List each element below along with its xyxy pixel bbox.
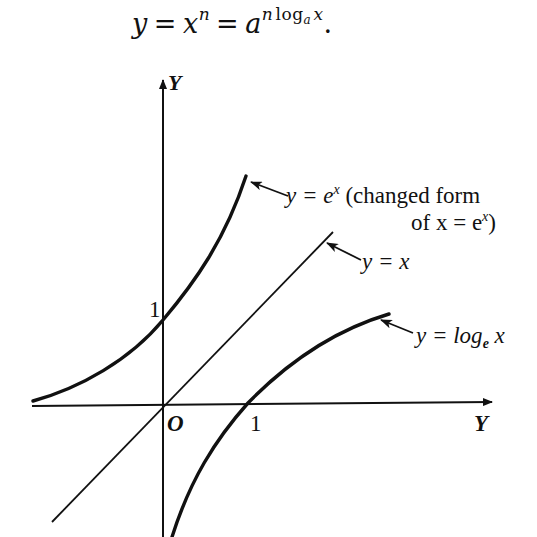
exp-label-note-2-sup: x [482,209,488,224]
x-axis-label: Y [474,412,488,435]
exp-label-sup: x [333,182,339,197]
exp-label-note-2-suffix: ) [488,210,496,235]
log-label-main: y = log [416,323,483,348]
y-tick-label-1: 1 [149,298,161,321]
log-curve-label: y = loge x [416,324,505,347]
exp-curve [33,176,246,401]
exp-label-pointer [251,182,288,196]
log-label-suffix: x [489,323,505,348]
origin-label: O [167,412,184,435]
exp-curve-label-line2: of x = ex) [411,211,496,234]
log-label-pointer [381,320,413,333]
identity-label-pointer [327,243,361,260]
exp-curve-label: y = ex (changed form [286,184,480,207]
exp-label-note-1: (changed form [340,183,481,208]
exp-label-note-2: of x = e [411,210,482,235]
x-tick-label-1: 1 [250,412,262,435]
exp-label-main: y = e [286,183,333,208]
graph-canvas [0,0,537,537]
log-label-sub: e [483,336,489,351]
y-axis-label: Y [168,72,181,94]
log-curve [172,314,389,537]
x-axis [32,402,492,406]
identity-line-label: y = x [362,250,409,273]
